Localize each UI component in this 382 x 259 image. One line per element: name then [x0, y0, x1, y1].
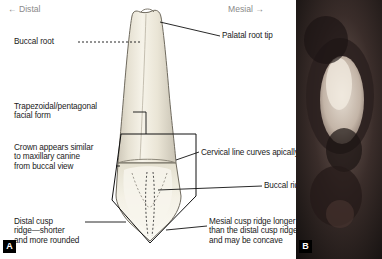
label-crown-similar: Crown appears similar to maxillary canin… [14, 143, 93, 171]
leader-palatal-root-tip [160, 22, 220, 36]
panel-badge-a: A [3, 240, 16, 253]
label-cervical-line: Cervical line curves apically [201, 148, 299, 157]
label-buccal-root: Buccal root [14, 37, 54, 46]
direction-label-mesial: Mesial → [228, 4, 264, 14]
label-distal-cusp-ridge: Distal cusp ridge—shorter and more round… [14, 217, 79, 245]
figure-root: ← Distal Mesial → Buccal root Palatal ro… [0, 0, 382, 259]
clinical-photo-panel [296, 0, 382, 259]
tooth-root-shape [118, 10, 176, 163]
label-mesial-cusp-ridge: Mesial cusp ridge longer than the distal… [209, 217, 297, 245]
label-facial-form: Trapezoidal/pentagonal facial form [14, 102, 97, 121]
leader-mesial-cusp-ridge [166, 226, 207, 230]
direction-label-distal: ← Distal [8, 4, 40, 14]
panel-badge-b: B [299, 240, 312, 253]
label-palatal-root-tip: Palatal root tip [222, 31, 273, 40]
